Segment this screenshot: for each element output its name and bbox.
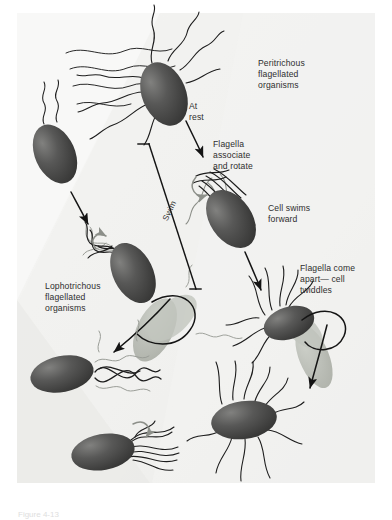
label-flagella-come-apart-cell-twiddles: Flagella come apart— cell twiddles	[300, 263, 355, 297]
figure-caption: Figure 4-13	[18, 510, 59, 520]
label-flagella-associate-and-rotate: Flagella associate and rotate	[213, 139, 253, 173]
label-peritrichous-flagellated-organisms: Peritrichous flagellated organisms	[258, 58, 305, 92]
label-lophotrichous-flagellated-organisms: Lophotrichous flagellated organisms	[45, 281, 101, 315]
label-cell-swims-forward: Cell swims forward	[268, 203, 310, 225]
label-at-rest: At rest	[189, 101, 204, 123]
